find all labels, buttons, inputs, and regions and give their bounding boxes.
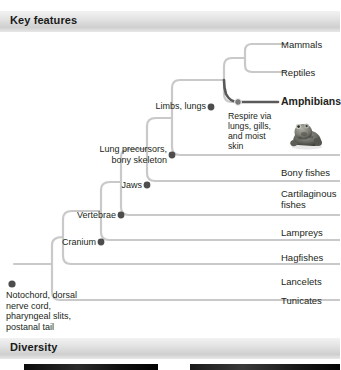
node-dot-vertebrae bbox=[118, 212, 125, 219]
tip-label-mammals: Mammals bbox=[281, 39, 322, 50]
tip-label-reptiles: Reptiles bbox=[281, 67, 315, 78]
node-dot-jaws bbox=[144, 182, 151, 189]
node-dot-amphibian-respiration bbox=[235, 99, 242, 106]
tip-label-tunicates: Tunicates bbox=[281, 295, 322, 306]
tip-label-lancelets: Lancelets bbox=[281, 276, 322, 287]
diversity-photo-left bbox=[24, 364, 158, 370]
fork-lung-precursors bbox=[172, 80, 180, 155]
tip-label-amphibians: Amphibians bbox=[281, 96, 341, 107]
tip-label-cartilaginous-fishes: Cartilaginous fishes bbox=[281, 188, 341, 210]
node-label-vertebrae: Vertebrae bbox=[66, 210, 116, 221]
node-label-limbs-lungs: Limbs, lungs bbox=[136, 101, 206, 112]
node-dot-limbs-lungs bbox=[208, 104, 215, 111]
node-label-jaws: Jaws bbox=[107, 180, 142, 191]
node-label-cranium: Cranium bbox=[52, 237, 96, 248]
node-dot-lung-precursors bbox=[169, 152, 176, 159]
node-dot-cranium bbox=[98, 239, 105, 246]
section-header-key-features: Key features bbox=[0, 10, 340, 32]
frog-photo bbox=[286, 117, 328, 150]
node-label-notochord: Notochord, dorsal nerve cord, pharyngeal… bbox=[6, 290, 90, 332]
amphibian-respiration-note: Respire via lungs, gills, and moist skin bbox=[228, 111, 280, 151]
node-label-lung-precursors: Lung precursors, bony skeleton bbox=[97, 144, 167, 165]
node-dots bbox=[8, 99, 241, 288]
section-header-diversity: Diversity bbox=[0, 337, 340, 359]
tip-label-hagfishes: Hagfishes bbox=[281, 252, 323, 263]
section-header-key-features-label: Key features bbox=[10, 14, 77, 26]
section-header-diversity-label: Diversity bbox=[10, 341, 57, 353]
node-dot-notochord bbox=[8, 280, 15, 287]
diversity-photo-right bbox=[190, 364, 340, 370]
tip-label-bony-fishes: Bony fishes bbox=[281, 167, 330, 178]
tip-label-lampreys: Lampreys bbox=[281, 227, 323, 238]
